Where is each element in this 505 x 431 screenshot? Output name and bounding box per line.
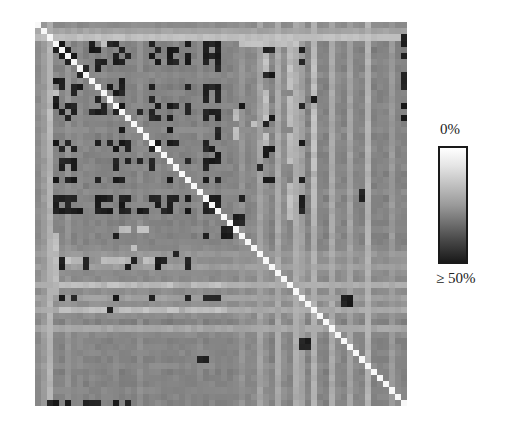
colorbar-top-label: 0% (440, 121, 460, 138)
colorbar (438, 146, 468, 264)
heatmap-cell (401, 400, 407, 406)
colorbar-bottom-label: ≥ 50% (436, 270, 475, 287)
correlation-heatmap (35, 22, 407, 406)
